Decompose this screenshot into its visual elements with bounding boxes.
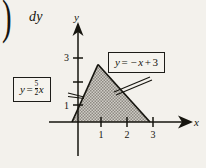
slope-variable: x [39, 83, 44, 95]
callout-slope-equation: y=52x [13, 77, 51, 102]
leader-line-equation [114, 77, 150, 92]
line-constant: 3 [152, 56, 158, 68]
slope-numerator: 5 [35, 80, 39, 88]
slope-fraction: 52 [35, 80, 39, 96]
line-equation-text: y=−x+3 [115, 56, 158, 68]
x-tick-label-1: 1 [95, 130, 107, 140]
shaded-region [72, 65, 150, 123]
slope-equals: = [25, 83, 34, 95]
line-minus: − [129, 56, 138, 68]
line-equals: = [120, 56, 129, 68]
x-tick-label-3: 3 [147, 130, 159, 140]
slope-denominator: 2 [35, 88, 39, 97]
leader-line-equation-second [116, 80, 152, 95]
y-tick-label-3: 3 [59, 53, 69, 63]
math-figure: ) dy [0, 0, 206, 168]
callout-line-equation: y=−x+3 [108, 52, 165, 73]
slope-equation-text: y=52x [20, 83, 44, 95]
y-tick-label-1: 1 [59, 101, 69, 111]
x-tick-label-2: 2 [121, 130, 133, 140]
y-axis-label: y [74, 12, 79, 23]
x-axis-label: x [194, 117, 199, 128]
